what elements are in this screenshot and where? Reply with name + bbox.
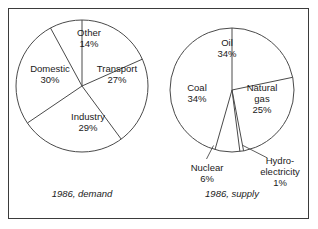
right-pie-label-coal: Coal 34% — [187, 82, 207, 104]
right-pie-label-hydro-value: 1% — [273, 177, 287, 188]
left-pie-label-industry-name: Industry — [71, 111, 105, 122]
left-pie-label-other: Other 14% — [77, 27, 101, 49]
right-pie-label-natural-gas-name1: Natural — [247, 82, 278, 93]
right-pie-label-hydro-name2: electricity — [260, 166, 300, 177]
pie-charts-svg: Other 14% Transport 27% Industry 29% Dom… — [0, 0, 318, 229]
right-pie-label-hydro-name1: Hydro- — [266, 155, 295, 166]
left-pie-label-industry-value: 29% — [78, 122, 98, 133]
left-pie-label-transport-name: Transport — [97, 63, 138, 74]
left-pie-label-other-name: Other — [77, 27, 101, 38]
right-pie-label-oil-value: 34% — [217, 48, 237, 59]
right-pie-label-nuclear-name: Nuclear — [191, 162, 224, 173]
right-pie-label-nuclear-value: 6% — [200, 173, 214, 184]
left-pie-label-domestic-value: 30% — [40, 74, 60, 85]
right-chart-caption: 1986, supply — [205, 188, 260, 199]
right-pie-label-coal-value: 34% — [187, 93, 207, 104]
right-pie-label-nuclear: Nuclear 6% — [191, 162, 224, 184]
right-pie-chart: Oil 34% Natural gas 25% Coal 34% Nuclear… — [170, 28, 300, 199]
right-pie-label-hydro: Hydro- electricity 1% — [260, 155, 300, 188]
right-pie-label-natural-gas-name2: gas — [254, 93, 270, 104]
right-pie-label-natural-gas-value: 25% — [252, 104, 272, 115]
left-pie-label-transport-value: 27% — [107, 74, 127, 85]
right-pie-label-coal-name: Coal — [187, 82, 207, 93]
right-pie-label-oil-name: Oil — [221, 37, 233, 48]
figure-root: Other 14% Transport 27% Industry 29% Dom… — [0, 0, 318, 229]
left-pie-label-other-value: 14% — [79, 38, 99, 49]
left-pie-label-domestic-name: Domestic — [30, 63, 70, 74]
left-chart-caption: 1986, demand — [52, 188, 113, 199]
left-pie-chart: Other 14% Transport 27% Industry 29% Dom… — [16, 20, 148, 199]
